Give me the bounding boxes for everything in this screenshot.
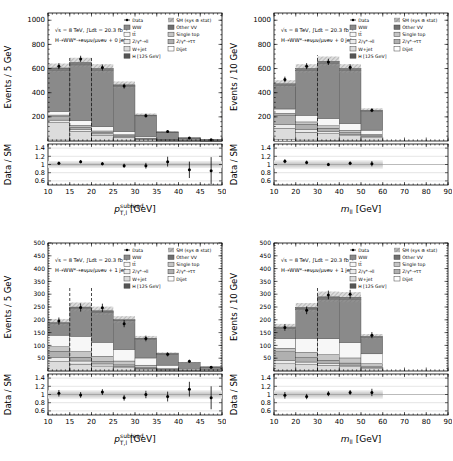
stack-segment xyxy=(70,65,92,121)
ratio-y-tick-label: 1.2 xyxy=(35,383,45,391)
y-tick-label: 100 xyxy=(34,342,46,349)
stack-segment xyxy=(113,137,135,140)
ratio-point xyxy=(79,160,82,163)
stack-segment xyxy=(92,131,114,132)
stack-segment xyxy=(361,130,383,134)
stack-segment xyxy=(135,137,157,138)
x-tick-label: 35 xyxy=(152,418,161,426)
legend-band-swatch-hatch xyxy=(168,248,174,252)
data-point xyxy=(57,320,60,323)
x-tick-label: 60 xyxy=(378,188,387,196)
y-axis-title: Events / 5 GeV xyxy=(3,45,13,108)
legend-color-swatch xyxy=(350,269,356,273)
x-tick-label: 30 xyxy=(313,418,322,426)
stack-segment xyxy=(296,357,318,362)
ratio-point xyxy=(144,393,147,396)
x-tick-label: 30 xyxy=(313,188,322,196)
stack-segment xyxy=(318,119,340,126)
y-axis-title: Events / 10 GeV xyxy=(229,43,239,111)
data-point xyxy=(123,322,126,325)
legend-label: Z/γ*→ll xyxy=(358,269,374,274)
ratio-y-tick-label: 0.6 xyxy=(261,177,271,185)
legend-label: Dijet xyxy=(176,47,187,52)
ratio-y-tick-label: 1 xyxy=(267,161,271,169)
y-tick-label: 300 xyxy=(260,290,272,297)
x-tick-label: 40 xyxy=(174,188,183,196)
legend-label: W+jet xyxy=(358,47,372,52)
stack-segment xyxy=(274,364,296,370)
x-tick-label: 40 xyxy=(335,188,344,196)
y-tick-label: 1000 xyxy=(27,16,45,24)
data-point xyxy=(166,353,169,356)
ratio-point xyxy=(188,168,191,171)
legend-color-swatch xyxy=(168,262,174,266)
stack-segment xyxy=(296,362,318,365)
stack-segment xyxy=(135,358,157,365)
ratio-y-tick-label: 1 xyxy=(41,391,45,399)
stack-segment xyxy=(92,71,114,127)
legend-color-swatch xyxy=(124,25,130,29)
ratio-y-tick-label: 1.2 xyxy=(261,153,271,161)
data-point xyxy=(101,66,104,69)
stack-segment xyxy=(92,342,114,356)
stack-segment xyxy=(296,129,318,132)
x-tick-label: 50 xyxy=(218,188,226,196)
ratio-point xyxy=(101,391,104,394)
stack-segment xyxy=(318,363,340,365)
x-tick-label: 70 xyxy=(400,188,409,196)
data-point xyxy=(327,293,330,296)
stack-segment xyxy=(70,364,92,370)
x-tick-label: 20 xyxy=(291,188,300,196)
stack-segment xyxy=(113,349,135,361)
legend-label: Data xyxy=(358,18,369,23)
ratio-y-axis-title: Data / SM xyxy=(3,374,13,415)
ratio-y-tick-label: 1.4 xyxy=(261,144,271,152)
legend-label: Other VV xyxy=(402,25,424,30)
stack-segment xyxy=(318,339,340,355)
x-tick-label: 90 xyxy=(444,188,452,196)
legend-label: Z/γ*→ll xyxy=(358,39,374,44)
legend-color-swatch xyxy=(394,32,400,36)
x-tick-label: 35 xyxy=(152,188,161,196)
data-point xyxy=(188,360,191,363)
stack-segment xyxy=(92,356,114,361)
legend-color-swatch xyxy=(168,39,174,43)
x-tick-label: 50 xyxy=(218,418,226,426)
stack-segment xyxy=(339,124,361,131)
stack-segment xyxy=(361,111,383,130)
stack-segment xyxy=(339,134,361,135)
stack-segment xyxy=(48,362,70,371)
stack-segment xyxy=(92,132,114,133)
x-tick-label: 50 xyxy=(357,188,366,196)
info-energy-lumi: √s = 8 TeV, ∫Ldt = 20.3 fb⁻¹ xyxy=(281,257,354,264)
legend-color-swatch xyxy=(394,39,400,43)
x-tick-label: 45 xyxy=(196,418,205,426)
stack-segment xyxy=(157,365,179,368)
data-point xyxy=(283,78,286,81)
ratio-y-tick-label: 0.8 xyxy=(35,169,45,177)
legend-label: W+jet xyxy=(358,277,372,282)
legend-color-swatch xyxy=(350,47,356,51)
stack-segment xyxy=(296,132,318,140)
stack-segment xyxy=(92,135,114,140)
stack-segment xyxy=(48,120,70,122)
ratio-y-tick-label: 0.8 xyxy=(261,169,271,177)
legend-color-swatch xyxy=(350,262,356,266)
ratio-point xyxy=(79,393,82,396)
stack-segment xyxy=(318,355,340,361)
stack-segment xyxy=(339,136,361,141)
x-tick-label: 10 xyxy=(270,418,279,426)
legend-label: H [125 GeV] xyxy=(358,284,386,289)
x-tick-label: 10 xyxy=(44,188,53,196)
stack-segment xyxy=(70,127,92,129)
stack-segment xyxy=(135,339,157,358)
stack-segment xyxy=(296,124,318,129)
stack-segment xyxy=(48,351,70,357)
stack-segment xyxy=(296,365,318,371)
stack-segment xyxy=(70,336,92,351)
stack-segment xyxy=(135,365,157,367)
x-axis-title: psubleadT,l [GeV] xyxy=(113,202,155,216)
panel-top-left: 2004006008001000Events / 5 GeV√s = 8 TeV… xyxy=(0,0,226,230)
y-tick-label: 50 xyxy=(37,354,45,361)
x-axis-title: mll [GeV] xyxy=(341,434,382,445)
